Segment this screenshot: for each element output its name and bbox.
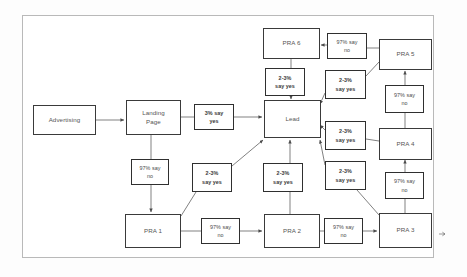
node-pra-1[interactable]: PRA 1 (125, 214, 181, 248)
node-pra-6[interactable]: PRA 6 (263, 28, 320, 59)
node-pra-4[interactable]: PRA 4 (379, 128, 432, 160)
edge-label-pra5-to-pra6[interactable]: 97% say no (327, 33, 367, 59)
edge-label-text: 2-3% say yes (336, 167, 356, 183)
edge-label-lp-to-lead[interactable]: 3% say yes (194, 104, 234, 130)
edge-label-pra5-to-lead[interactable]: 2-3% say yes (325, 70, 366, 99)
edge-label-pra3-to-pra4[interactable]: 97% say no (385, 172, 424, 199)
node-pra-5[interactable]: PRA 5 (379, 39, 432, 70)
node-label: PRA 3 (396, 226, 414, 235)
edge-label-text: 3% say yes (205, 109, 224, 125)
edge-label-pra2-to-pra3[interactable]: 97% say no (324, 218, 363, 244)
node-label: PRA 4 (396, 140, 414, 149)
node-advertising[interactable]: Advertising (33, 105, 96, 135)
edge-label-pra3-to-lead[interactable]: 2-3% say yes (325, 161, 366, 190)
edge-label-pra1-to-lead[interactable]: 2-3% say yes (192, 163, 232, 192)
edge-label-pra2-to-lead[interactable]: 2-3% say yes (263, 163, 303, 192)
edge-label-text: 97% say no (333, 223, 354, 239)
edge-label-text: 2-3% say yes (202, 169, 222, 185)
node-label: PRA 2 (283, 227, 301, 236)
node-landing-page[interactable]: Landing Page (126, 100, 181, 135)
node-pra-2[interactable]: PRA 2 (264, 214, 320, 248)
node-label: Landing Page (142, 109, 165, 127)
edge-label-text: 2-3% say yes (273, 169, 293, 185)
edge-label-text: 97% say no (394, 91, 415, 107)
edge-label-text: 2-3% say yes (275, 74, 295, 90)
edge-label-text: 97% say no (336, 38, 357, 54)
edge-label-text: 2-3% say yes (336, 127, 356, 143)
edge-label-lp-to-pra1[interactable]: 97% say no (131, 159, 169, 185)
diagram-canvas: AdvertisingLanding PageLeadPRA 6PRA 5PRA… (0, 0, 467, 277)
node-lead[interactable]: Lead (264, 100, 321, 138)
edge-label-text: 97% say no (139, 164, 160, 180)
edge-label-pra1-to-pra2[interactable]: 97% say no (201, 218, 240, 244)
edge-label-text: 97% say no (210, 223, 231, 239)
edge-label-pra4-to-pra5[interactable]: 97% say no (385, 85, 424, 113)
corner-arrow-icon (439, 231, 447, 237)
node-label: PRA 6 (282, 39, 300, 48)
edge-label-pra4-to-lead[interactable]: 2-3% say yes (325, 121, 366, 150)
node-label: Advertising (49, 116, 81, 125)
node-label: PRA 1 (144, 227, 162, 236)
node-label: Lead (285, 115, 299, 124)
edge-label-pra6-to-lead[interactable]: 2-3% say yes (265, 68, 305, 96)
edge-label-text: 2-3% say yes (336, 76, 356, 92)
node-pra-3[interactable]: PRA 3 (379, 213, 432, 248)
node-label: PRA 5 (396, 50, 414, 59)
edge-label-text: 97% say no (394, 177, 415, 193)
